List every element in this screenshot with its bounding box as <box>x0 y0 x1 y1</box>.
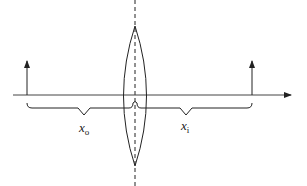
biconvex-lens <box>124 26 147 166</box>
object-distance-brace <box>27 102 137 116</box>
image-distance-brace <box>137 103 252 115</box>
image-distance-label: xi <box>180 118 190 135</box>
object-distance-label: xo <box>78 120 90 137</box>
lens-diagram: xo xi <box>0 0 307 186</box>
